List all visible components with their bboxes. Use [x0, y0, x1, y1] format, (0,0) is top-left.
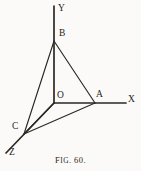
caption-number: . 60.: [69, 155, 86, 165]
geometry-figure: [0, 0, 141, 171]
vertex-label-c: C: [12, 122, 19, 132]
vertex-label-b: B: [59, 29, 66, 39]
vertex-label-o: O: [57, 91, 64, 101]
axis-label-x: X: [128, 95, 135, 105]
figure-caption: FIG. 60.: [0, 155, 141, 165]
caption-smallcaps: IG: [60, 156, 69, 165]
edge-B-C: [24, 41, 54, 134]
figure-page: Y B O A X C Z FIG. 60.: [0, 0, 141, 171]
axis-label-y: Y: [58, 4, 65, 14]
edge-A-C: [24, 103, 95, 134]
vertex-label-a: A: [96, 90, 103, 100]
